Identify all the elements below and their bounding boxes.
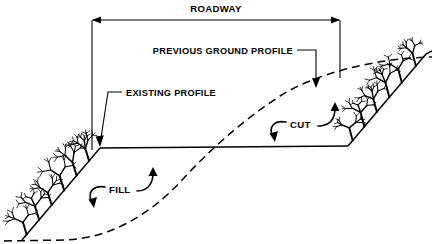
shrub-branch <box>72 143 78 144</box>
shrub-branch <box>357 98 359 102</box>
shrub-branch <box>21 197 25 202</box>
shrub-branch <box>398 61 403 69</box>
shrub-branch <box>402 55 404 61</box>
shrub-branch <box>34 191 37 193</box>
shrub-branch <box>379 64 384 66</box>
shrub-branch <box>65 148 66 156</box>
shrub-branch <box>388 54 392 57</box>
shrub-branch <box>38 167 43 171</box>
shrub-branch <box>333 126 337 127</box>
shrub-branch <box>27 205 29 209</box>
shrub-branch <box>350 103 353 105</box>
shrub-branch <box>85 149 89 161</box>
shrub-branch <box>378 89 384 91</box>
shrub-branch <box>31 193 34 198</box>
shrub-branch <box>7 210 12 212</box>
shrub-branch <box>401 48 407 49</box>
shrub-branch <box>406 39 408 42</box>
shrub-branch <box>30 186 34 189</box>
shrub-branch <box>345 101 349 103</box>
shrub-branch <box>413 46 415 54</box>
shrub-branch <box>5 221 8 225</box>
shrub-branch <box>23 215 28 223</box>
shrub-branch <box>93 133 95 136</box>
shrub-branch <box>27 209 29 215</box>
cut-annotation-group: CUT <box>270 102 340 142</box>
shrub-branch <box>49 162 51 170</box>
roadway-surface-line <box>100 146 348 148</box>
shrub-branch <box>371 85 373 88</box>
shrub-branch <box>33 179 37 182</box>
shrub-branch <box>14 219 22 223</box>
arrow-left-icon <box>92 16 101 23</box>
shrub-branch <box>48 185 53 193</box>
shrub-branch <box>23 222 27 234</box>
fill-arrow-up-head-icon <box>149 167 158 176</box>
shrub-branch <box>38 189 41 192</box>
shrub-branch <box>367 99 368 105</box>
shrub-branch <box>35 198 41 206</box>
shrub-branch <box>385 73 390 82</box>
shrub-branch <box>352 100 353 103</box>
shrub-branch <box>34 188 40 189</box>
shrub-branch <box>385 83 389 98</box>
shrub-branch <box>37 177 38 182</box>
shrub-branch <box>354 112 357 116</box>
shrub-branch <box>73 137 74 141</box>
shrub-branch <box>73 152 75 162</box>
shrub-branch <box>35 206 39 220</box>
shrub-branch <box>23 197 26 199</box>
arrow-down-left-icon <box>96 135 104 147</box>
vegetation-left-slope <box>3 130 96 235</box>
shrub-branch <box>60 152 65 156</box>
shrub-branch <box>40 171 43 176</box>
shrub-branch <box>384 55 388 57</box>
shrub-branch <box>65 156 72 163</box>
shrub-branch <box>361 105 367 112</box>
shrub-branch <box>60 167 66 176</box>
shrub-branch <box>79 134 81 137</box>
shrub-branch <box>353 103 358 105</box>
shrub-branch <box>51 170 60 176</box>
shrub-branch <box>358 101 362 105</box>
cut-label: CUT <box>290 119 311 130</box>
shrub-branch <box>412 41 415 46</box>
shrub-branch <box>64 159 65 166</box>
shrub-branch <box>365 79 370 80</box>
shrub-branch <box>70 146 74 152</box>
shrub-branch <box>415 43 420 46</box>
vegetation-right-slope <box>333 37 423 140</box>
shrub-branch <box>28 213 34 214</box>
shrub-branch <box>24 193 26 196</box>
arrow-right-icon <box>331 16 340 23</box>
existing-profile-label: EXISTING PROFILE <box>126 88 216 98</box>
shrub-branch <box>53 153 57 157</box>
shrub-branch <box>382 69 383 74</box>
shrub-branch <box>349 122 355 128</box>
shrub-branch <box>63 144 66 148</box>
shrub-branch <box>335 127 337 130</box>
existing-profile-leader-group: EXISTING PROFILE <box>96 88 216 147</box>
shrub-branch <box>377 85 378 91</box>
shrub-branch <box>390 70 396 73</box>
shrub-branch <box>362 90 365 95</box>
shrub-branch <box>70 141 74 142</box>
diagram-canvas: ROADWAY PREVIOUS GROUND PROFILE E <box>0 0 432 244</box>
previous-ground-profile-leader-group: PREVIOUS GROUND PROFILE <box>153 46 320 88</box>
shrub-branch <box>52 174 54 178</box>
shrub-branch <box>370 78 377 81</box>
shrub-branch <box>339 117 340 120</box>
cut-slope-line-extension <box>426 51 432 54</box>
shrub-branch <box>54 157 57 162</box>
shrub-branch <box>373 91 378 99</box>
shrub-branch <box>52 178 53 185</box>
fill-annotation-group: FILL <box>89 167 158 208</box>
shrub-branch <box>65 166 72 167</box>
previous-ground-profile-leader-line <box>297 50 316 80</box>
shrub-branch <box>373 83 374 86</box>
fill-label: FILL <box>109 184 130 195</box>
shrub-branch <box>402 51 404 55</box>
shrub-branch <box>404 39 406 42</box>
shrub-branch <box>73 162 77 175</box>
arrow-down-icon <box>312 78 320 88</box>
